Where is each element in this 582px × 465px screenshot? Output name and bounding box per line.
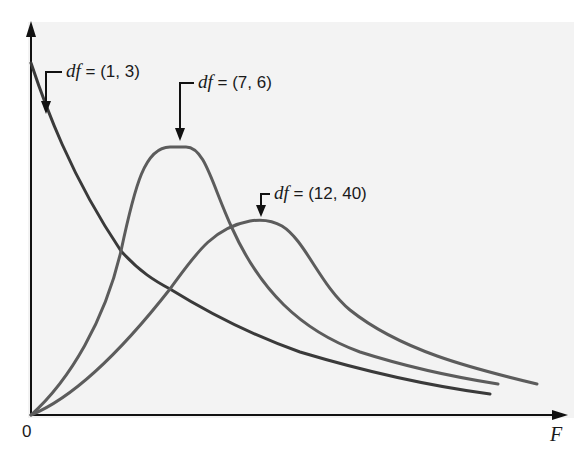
x-axis-label: F bbox=[550, 423, 562, 446]
y-axis-arrow-icon bbox=[26, 21, 36, 37]
curve-df-7-6 bbox=[31, 147, 498, 415]
arrow-down-icon bbox=[256, 205, 266, 217]
df-value: = (12, 40) bbox=[289, 184, 367, 203]
df-symbol: df bbox=[66, 60, 81, 81]
annotation-arrow-df-7-6 bbox=[175, 83, 194, 141]
label-df-12-40: df = (12, 40) bbox=[274, 182, 367, 204]
curve-df-1-3 bbox=[31, 63, 490, 394]
label-df-1-3: df = (1, 3) bbox=[66, 60, 140, 82]
annotation-arrow-df-12-40 bbox=[256, 194, 270, 217]
df-value: = (7, 6) bbox=[213, 73, 272, 92]
df-symbol: df bbox=[274, 182, 289, 203]
df-value: = (1, 3) bbox=[81, 62, 140, 81]
df-symbol: df bbox=[198, 71, 213, 92]
x-axis-arrow-icon bbox=[552, 410, 568, 420]
x-tick-origin: 0 bbox=[22, 422, 31, 442]
annotation-arrow-df-1-3 bbox=[41, 72, 62, 114]
label-df-7-6: df = (7, 6) bbox=[198, 71, 272, 93]
curve-df-12-40 bbox=[31, 220, 537, 415]
arrow-down-icon bbox=[175, 128, 185, 141]
